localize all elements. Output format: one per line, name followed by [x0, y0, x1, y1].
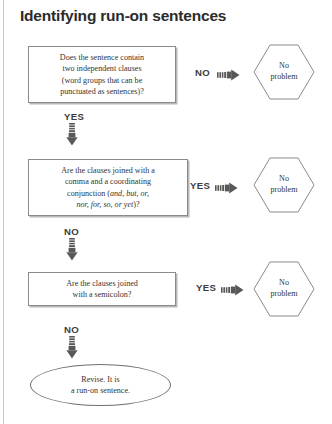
box1-line-1: Does the sentence contain	[60, 53, 144, 62]
branch-label-down1-yes: YES	[64, 111, 84, 122]
striped-down-arrow-icon	[66, 238, 78, 266]
outcome-hexagon-no-problem-1: No problem	[253, 44, 315, 100]
striped-right-arrow-icon	[221, 282, 245, 300]
page-title: Identifying run-on sentences	[20, 7, 226, 25]
hex1-line-1: No	[279, 61, 289, 70]
box1-line-2: two independent clauses	[62, 64, 141, 73]
outcome-hexagon-no-problem-2: No problem	[253, 157, 315, 213]
hex1-line-2: problem	[271, 72, 298, 81]
box2-line-3-conjunctions: and, but, or,	[110, 189, 149, 198]
hex3-line-1: No	[279, 278, 289, 287]
branch-label-down3-no: NO	[64, 324, 79, 335]
box2-line-1: Are the clauses joined with a	[61, 166, 155, 175]
branch-label-row3-yes: YES	[196, 282, 216, 293]
box2-line-2: comma and a coordinating	[65, 177, 151, 186]
striped-down-arrow-icon	[66, 123, 78, 151]
striped-right-arrow-icon	[217, 67, 241, 85]
cutoff-caption	[22, 416, 322, 424]
striped-right-arrow-icon	[215, 180, 239, 198]
box2-line-3-prefix: conjunction (	[67, 189, 110, 198]
decision-box-independent-clauses: Does the sentence contain two independen…	[28, 46, 176, 103]
box3-line-2: with a semicolon?	[73, 290, 132, 299]
hex2-line-2: problem	[271, 185, 298, 194]
decision-box-semicolon: Are the clauses joined with a semicolon?	[28, 272, 176, 306]
box3-line-1: Are the clauses joined	[66, 279, 138, 288]
terminator-oval-revise: Revise. It is a run-on sentence.	[30, 364, 171, 406]
box2-line-4-suffix: )?	[133, 200, 139, 209]
decision-box-comma-coordinating-conjunction: Are the clauses joined with a comma and …	[28, 159, 188, 216]
hex3-line-2: problem	[271, 289, 298, 298]
page-margin-rule	[3, 0, 4, 424]
oval-line-1: Revise. It is	[81, 375, 119, 384]
hex2-line-1: No	[279, 174, 289, 183]
box2-line-4-conjunctions: nor, for, so, or yet	[76, 200, 133, 209]
outcome-hexagon-no-problem-3: No problem	[253, 261, 315, 317]
oval-line-2: a run-on sentence.	[71, 386, 130, 395]
branch-label-down2-no: NO	[64, 226, 79, 237]
striped-down-arrow-icon	[66, 336, 78, 364]
branch-label-row2-yes: YES	[190, 180, 210, 191]
box1-line-4: punctuated as sentences)?	[60, 87, 144, 96]
box1-line-3: (word groups that can be	[62, 76, 142, 85]
branch-label-row1-no: NO	[195, 67, 210, 78]
